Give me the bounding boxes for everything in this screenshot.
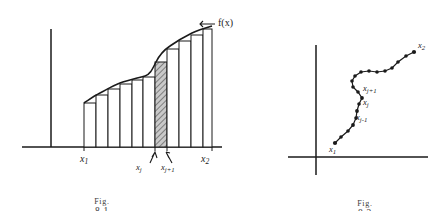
point xyxy=(356,90,360,94)
point xyxy=(383,69,387,73)
rect-2 xyxy=(96,95,108,147)
function-label: f(x) xyxy=(218,17,233,28)
rect-5 xyxy=(132,80,143,147)
point xyxy=(350,79,354,83)
point xyxy=(367,69,371,73)
point xyxy=(359,70,363,74)
point-xj-minus-1 xyxy=(351,123,355,127)
caption-number-left: 8.1 xyxy=(95,206,109,211)
label-x2: x2 xyxy=(201,154,209,166)
figure-8-2-drawing xyxy=(250,0,442,211)
point xyxy=(339,135,343,139)
rect-8 xyxy=(167,49,179,147)
figure-8-2-panel: xj+1 xj xj-1 x1 x2 Fig. 8.2 xyxy=(250,0,442,211)
fx-callout-arrow-icon xyxy=(200,21,215,27)
rect-1 xyxy=(84,103,96,147)
point xyxy=(396,60,400,64)
rect-11 xyxy=(203,29,212,147)
point-x2 xyxy=(412,50,416,54)
label-xj-plus-1: xj+1 xyxy=(161,163,175,174)
label-right-xj-minus-1: xj-1 xyxy=(356,113,367,124)
rect-6 xyxy=(143,77,155,147)
figure-8-1-caption: Fig. 8.1 xyxy=(0,186,218,211)
riemann-rectangles-right xyxy=(167,29,212,147)
rect-3 xyxy=(108,89,120,147)
path-sample-points xyxy=(333,50,416,145)
highlighted-rectangle xyxy=(155,62,167,147)
function-label-text: f(x) xyxy=(218,17,233,28)
figure-8-2-caption: Fig. 8.2 xyxy=(260,188,442,211)
rect-9 xyxy=(179,41,191,147)
caption-number-right: 8.2 xyxy=(358,208,372,211)
point xyxy=(390,66,394,70)
label-xj: xj xyxy=(136,163,142,174)
point xyxy=(346,129,350,133)
point xyxy=(353,74,357,78)
figure-8-1-panel: f(x) x1 xj xj+1 x2 Fig. 8.1 xyxy=(0,0,250,211)
caption-prefix-left: Fig. xyxy=(94,197,109,206)
label-right-xj-plus-1: xj+1 xyxy=(363,84,377,95)
polygonal-path xyxy=(335,52,414,143)
label-right-xj: xj xyxy=(363,98,369,109)
point xyxy=(375,70,379,74)
arrow-to-xj-icon xyxy=(150,152,157,163)
point xyxy=(351,85,355,89)
point xyxy=(404,54,408,58)
riemann-rectangles xyxy=(84,77,155,147)
rect-4 xyxy=(120,84,132,147)
figure-8-1-drawing xyxy=(0,0,250,211)
rect-10 xyxy=(191,35,203,147)
point xyxy=(357,102,361,106)
caption-prefix-right: Fig. xyxy=(357,199,372,208)
figure-sheet: f(x) x1 xj xj+1 x2 Fig. 8.1 xyxy=(0,0,442,211)
arrow-to-xj1-icon xyxy=(166,152,172,163)
label-right-x2: x2 xyxy=(418,41,425,52)
label-x1: x1 xyxy=(80,154,88,166)
label-right-x1: x1 xyxy=(329,145,336,156)
